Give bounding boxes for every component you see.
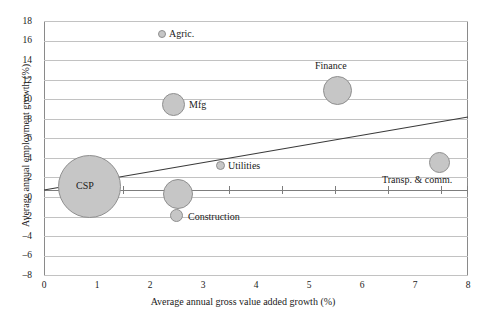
bubble-label-utilities: Utilities xyxy=(228,160,260,171)
y-tick-minus4: –4 xyxy=(8,232,32,242)
bubble-label-transp-comm: Transp. & comm. xyxy=(382,174,452,185)
y-tick-12: 12 xyxy=(8,76,32,86)
y-tick-4: 4 xyxy=(8,154,32,164)
y-tick-minus2: –2 xyxy=(8,212,32,222)
bubble-label-mfg: Mfg xyxy=(189,99,206,110)
y-tick-6: 6 xyxy=(8,134,32,144)
y-tick-8: 8 xyxy=(8,115,32,125)
y-tick-16: 16 xyxy=(8,36,32,46)
x-tick-3: 3 xyxy=(188,280,218,290)
x-tick-4: 4 xyxy=(241,280,271,290)
bubble-transp-comm[interactable] xyxy=(429,152,450,173)
x-tick-5: 5 xyxy=(294,280,324,290)
y-tick-10: 10 xyxy=(8,95,32,105)
x-tick-6: 6 xyxy=(347,280,377,290)
trend-line xyxy=(44,21,468,276)
bubble-label-csp: CSP xyxy=(76,180,94,191)
y-tick-0: 0 xyxy=(8,193,32,203)
x-tick-7: 7 xyxy=(400,280,430,290)
bubble-label-construction: Construction xyxy=(188,211,240,222)
y-tick-2: 2 xyxy=(8,173,32,183)
x-tick-0: 0 xyxy=(29,280,59,290)
y-tick-14: 14 xyxy=(8,56,32,66)
y-tick-minus6: –6 xyxy=(8,251,32,261)
x-tick-8: 8 xyxy=(453,280,483,290)
bubble-chart-figure: Average annual employment growth (%) 18 … xyxy=(0,0,486,320)
x-tick-2: 2 xyxy=(135,280,165,290)
bubble-construction[interactable] xyxy=(163,179,193,209)
bubble-finance[interactable] xyxy=(323,76,352,105)
x-tick-1: 1 xyxy=(82,280,112,290)
bubble-label-finance: Finance xyxy=(315,60,347,71)
y-tick-18: 18 xyxy=(8,17,32,27)
y-axis-title: Average annual employment growth (%) xyxy=(20,36,31,256)
bubble-marker-construction[interactable] xyxy=(170,209,183,222)
bubble-label-agric: Agric. xyxy=(169,28,194,39)
bubble-mfg[interactable] xyxy=(162,93,185,116)
bubble-utilities[interactable] xyxy=(216,161,225,170)
bubble-agric[interactable] xyxy=(158,30,166,38)
x-axis-title: Average annual gross value added growth … xyxy=(0,296,486,307)
